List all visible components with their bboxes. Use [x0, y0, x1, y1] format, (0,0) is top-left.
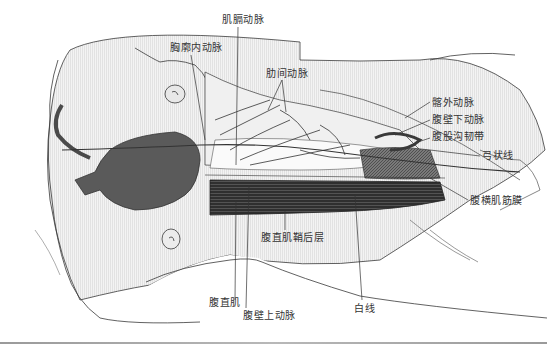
label-arcuate-line: 弓状线 — [482, 150, 514, 162]
label-internal-thoracic-artery: 胸廓内动脉 — [170, 42, 223, 54]
label-rectus-abdominis: 腹直肌 — [209, 297, 241, 309]
label-inferior-epigastric-artery: 腹壁下动脉 — [432, 114, 485, 126]
anatomy-figure: 肌膈动脉 胸廓内动脉 肋间动脉 髂外动脉 腹壁下动脉 腹股沟韧带 弓状线 腹横肌… — [0, 0, 547, 361]
hip-contour — [35, 230, 60, 275]
label-inguinal-ligament: 腹股沟韧带 — [432, 131, 485, 143]
bottom-divider — [0, 342, 547, 344]
label-superior-epigastric-artery: 腹壁上动脉 — [243, 310, 296, 322]
label-posterior-rectus-sheath: 腹直肌鞘后层 — [261, 232, 324, 244]
label-intercostal-arteries: 肋间动脉 — [266, 68, 308, 80]
label-musculophrenic-artery: 肌膈动脉 — [222, 14, 264, 26]
anatomy-illustration — [0, 0, 547, 361]
label-external-iliac-artery: 髂外动脉 — [432, 97, 474, 109]
upper-circle — [165, 85, 185, 103]
lower-circle — [162, 229, 180, 249]
label-transversalis-fascia: 腹横肌筋膜 — [470, 195, 523, 207]
label-linea-alba: 白线 — [354, 303, 375, 315]
